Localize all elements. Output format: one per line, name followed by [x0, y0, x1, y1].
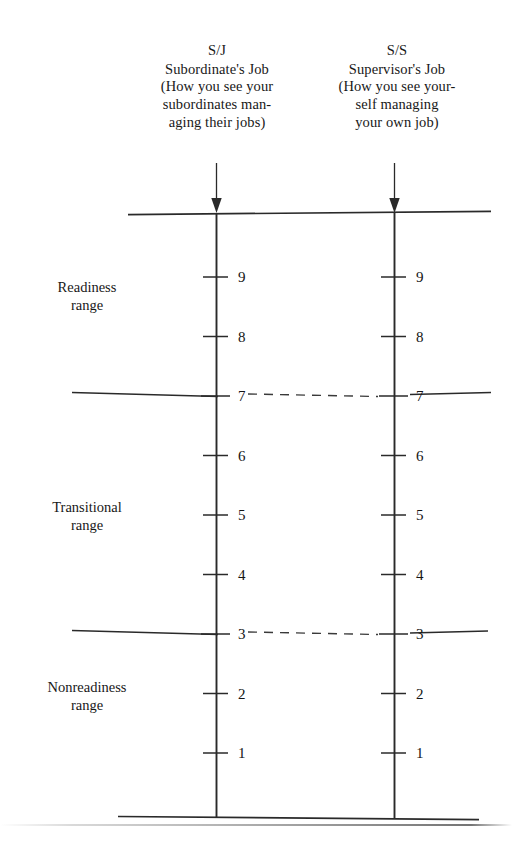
tick-label-ss-3: 3 [416, 627, 424, 642]
band-boundary-3 [72, 631, 488, 635]
range-label-transitional: Transitional range [12, 498, 162, 534]
tick-label-sj-6: 6 [238, 448, 246, 463]
tick-marks-sj [201, 277, 230, 753]
band-boundary-7 [72, 393, 491, 397]
column-name-sj: Subordinate's Job [131, 61, 303, 79]
tick-label-ss-5: 5 [416, 508, 424, 523]
range-label-readiness: Readiness range [12, 278, 162, 314]
tick-label-sj-5: 5 [238, 508, 246, 523]
column-note-ss-line1: (How you see your- [311, 78, 483, 96]
down-arrow-ss [389, 163, 399, 213]
tick-marks-ss [379, 277, 408, 753]
tick-label-sj-9: 9 [238, 270, 246, 285]
tick-label-ss-9: 9 [416, 270, 424, 285]
tick-label-ss-7: 7 [416, 389, 424, 404]
readiness-scale-figure: S/J Subordinate's Job (How you see your … [0, 0, 512, 856]
tick-label-sj-4: 4 [238, 567, 246, 582]
column-name-ss: Supervisor's Job [311, 61, 483, 79]
range-label-readiness-line2: range [71, 297, 103, 313]
column-code-ss: S/S [311, 42, 483, 60]
range-label-nonreadiness: Nonreadiness range [6, 678, 168, 714]
range-label-nonreadiness-line2: range [71, 697, 103, 713]
column-note-sj-line3: aging their jobs) [131, 114, 303, 132]
range-label-transitional-line1: Transitional [52, 499, 122, 515]
scan-edge-artifact [0, 824, 512, 826]
range-label-transitional-line2: range [71, 517, 103, 533]
column-note-ss-line2: self managing [311, 96, 483, 114]
tick-label-sj-3: 3 [238, 627, 246, 642]
down-arrow-sj [211, 163, 221, 213]
bottom-boundary-line [118, 817, 479, 820]
column-note-sj-line2: subordinates man- [131, 96, 303, 114]
column-note-ss-line3: your own job) [311, 114, 483, 132]
tick-label-sj-7: 7 [238, 389, 246, 404]
column-header-sj: S/J Subordinate's Job (How you see your … [131, 42, 303, 131]
column-note-sj-line1: (How you see your [131, 78, 303, 96]
tick-label-sj-1: 1 [238, 746, 246, 761]
tick-label-sj-8: 8 [238, 329, 246, 344]
column-header-ss: S/S Supervisor's Job (How you see your- … [311, 42, 483, 131]
range-label-readiness-line1: Readiness [58, 279, 117, 295]
top-boundary-line [128, 211, 491, 214]
tick-label-ss-8: 8 [416, 329, 424, 344]
tick-label-sj-2: 2 [238, 686, 246, 701]
column-code-sj: S/J [131, 42, 303, 60]
tick-label-ss-4: 4 [416, 567, 424, 582]
range-label-nonreadiness-line1: Nonreadiness [48, 679, 127, 695]
tick-label-ss-2: 2 [416, 686, 424, 701]
tick-label-ss-6: 6 [416, 448, 424, 463]
tick-label-ss-1: 1 [416, 746, 424, 761]
